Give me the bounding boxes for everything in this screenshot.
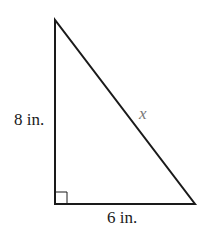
right-triangle — [55, 20, 195, 204]
hypotenuse-label: x — [138, 104, 147, 123]
vertical-leg-label: 8 in. — [14, 110, 44, 129]
horizontal-leg-label: 6 in. — [107, 208, 137, 227]
right-angle-marker — [55, 192, 67, 204]
triangle-diagram: 8 in. 6 in. x — [0, 0, 204, 237]
